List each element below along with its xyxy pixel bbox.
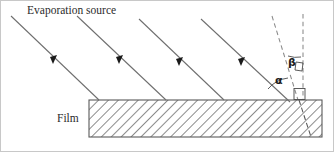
evaporation-ray-3	[139, 19, 224, 100]
evaporation-diagram: Evaporation source Film α β	[0, 0, 334, 152]
evaporation-ray-2	[77, 16, 166, 100]
film-label: Film	[57, 112, 79, 124]
normal-right-angle-mark	[295, 62, 303, 71]
alpha-angle-label: α	[275, 74, 283, 87]
diagram-canvas: Evaporation source Film α β	[0, 0, 334, 152]
evaporation-ray-1	[11, 16, 99, 100]
ray-arrowhead-2	[116, 55, 123, 64]
beta-angle-label: β	[288, 56, 296, 69]
ray-arrowhead-3	[176, 57, 183, 66]
evaporation-source-label: Evaporation source	[27, 4, 116, 17]
ray-arrowhead-4	[238, 57, 245, 66]
film-block	[89, 100, 322, 137]
evaporation-ray-group	[11, 16, 290, 102]
film-hatched-region	[89, 100, 322, 137]
